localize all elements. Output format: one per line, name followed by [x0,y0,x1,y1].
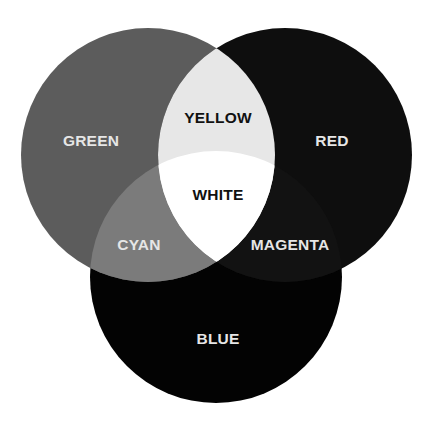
label-cyan: CYAN [117,236,160,253]
label-yellow: YELLOW [184,109,252,126]
label-red: RED [315,132,348,149]
label-blue: BLUE [197,330,240,347]
label-green: GREEN [63,132,119,149]
label-white: WHITE [193,186,244,203]
label-magenta: MAGENTA [251,236,330,253]
color-venn-diagram: GREEN RED YELLOW WHITE CYAN MAGENTA BLUE [0,0,434,428]
